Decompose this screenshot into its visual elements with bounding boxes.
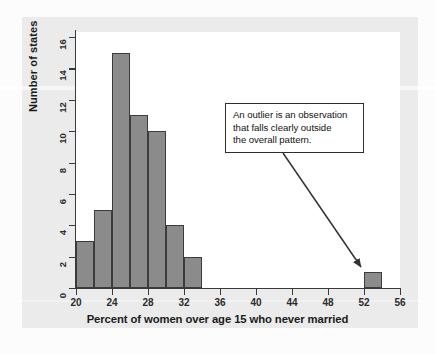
histogram-bar [364, 272, 382, 288]
y-axis-tick [69, 68, 75, 69]
y-axis-tick [69, 163, 75, 164]
y-axis-tick [69, 131, 75, 132]
x-axis-tick-label: 44 [280, 297, 304, 308]
x-axis-tick [76, 289, 77, 295]
y-axis-tick-label: 10 [57, 131, 68, 147]
x-axis-tick-label: 52 [352, 297, 376, 308]
y-axis-line [75, 30, 76, 289]
x-axis-tick [328, 289, 329, 295]
x-axis-tick [292, 289, 293, 295]
y-axis-tick [69, 37, 75, 38]
x-axis-line [75, 288, 401, 289]
x-axis-tick [112, 289, 113, 295]
annotation-line-1: An outlier is an observation [233, 109, 357, 122]
y-axis-tick [69, 257, 75, 258]
y-axis-tick [69, 100, 75, 101]
x-axis-tick-label: 56 [388, 297, 412, 308]
y-axis-tick [69, 225, 75, 226]
y-axis-tick-label: 6 [57, 193, 68, 209]
histogram-bar [148, 131, 166, 288]
y-axis-tick-label: 12 [57, 99, 68, 115]
y-axis-tick-label: 2 [57, 256, 68, 272]
y-axis-tick-label: 8 [57, 162, 68, 178]
y-axis-tick [69, 194, 75, 195]
x-axis-tick [364, 289, 365, 295]
histogram-bar [166, 225, 184, 288]
histogram-figure: 0246810121416 20242832364044485256 Numbe… [0, 0, 435, 354]
x-axis-tick-label: 36 [208, 297, 232, 308]
histogram-bar [184, 257, 202, 288]
y-axis-title: Number of states [27, 21, 39, 112]
scan-artifact-band [0, 86, 435, 90]
annotation-line-3: the overall pattern. [233, 134, 357, 147]
y-axis-tick [69, 288, 75, 289]
x-axis-tick [148, 289, 149, 295]
x-axis-tick-label: 32 [172, 297, 196, 308]
x-axis-tick [400, 289, 401, 295]
histogram-bar [76, 241, 94, 288]
x-axis-tick-label: 40 [244, 297, 268, 308]
x-axis-tick [184, 289, 185, 295]
x-axis-tick-label: 24 [100, 297, 124, 308]
x-axis-tick-label: 48 [316, 297, 340, 308]
x-axis-tick-label: 28 [136, 297, 160, 308]
x-axis-tick [220, 289, 221, 295]
x-axis-tick [256, 289, 257, 295]
x-axis-tick-label: 20 [64, 297, 88, 308]
outlier-annotation-box: An outlier is an observation that falls … [225, 103, 364, 153]
annotation-line-2: that falls clearly outside [233, 122, 357, 135]
y-axis-tick-label: 14 [57, 68, 68, 84]
histogram-bar [94, 210, 112, 288]
histogram-bar [130, 115, 148, 288]
y-axis-tick-label: 16 [57, 37, 68, 53]
x-axis-title: Percent of women over age 15 who never m… [0, 313, 435, 325]
histogram-bar [112, 53, 130, 288]
y-axis-tick-label: 4 [57, 225, 68, 241]
